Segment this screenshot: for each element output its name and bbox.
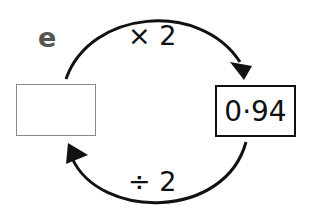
answer-box[interactable] <box>16 84 96 136</box>
bottom-arrowhead-icon <box>66 143 88 164</box>
multiply-operation: × 2 <box>128 22 176 49</box>
top-arrowhead-icon <box>230 62 252 80</box>
question-label: e <box>38 24 56 51</box>
divide-operation: ÷ 2 <box>128 168 176 195</box>
given-value-box: 0·94 <box>215 85 296 137</box>
